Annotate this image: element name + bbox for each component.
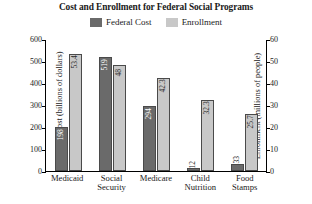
bar-value-label: 53.4 (71, 55, 79, 68)
bar-value-label: 25.7 (247, 116, 255, 129)
y-tick-label-right-20: 20 (270, 124, 278, 132)
x-axis-label: Medicare (134, 174, 178, 192)
bar-enroll[interactable]: 25.7 (245, 114, 258, 171)
y-tick-mark-left-0 (42, 172, 46, 173)
plot-area: Federal Cost (billions of dollars) Enrol… (45, 40, 267, 172)
y-tick-label-right-40: 40 (270, 80, 278, 88)
x-axis-label: ChildNutrition (178, 174, 222, 192)
y-tick-label-right-10: 10 (270, 146, 278, 154)
bar-value-label: 32.3 (203, 101, 211, 114)
y-tick-mark-right-0 (266, 172, 270, 173)
x-axis-label: SocialSecurity (90, 174, 134, 192)
y-tick-mark-right-50 (266, 62, 270, 63)
bar-group: 51948 (99, 40, 126, 171)
bar-enroll[interactable]: 32.3 (201, 100, 214, 171)
legend-label-enrollment: Enrollment (182, 17, 223, 27)
y-tick-mark-right-60 (266, 40, 270, 41)
legend-item-federal-cost: Federal Cost (90, 17, 152, 27)
bar-value-label: 519 (101, 59, 109, 70)
bar-group: 3325.7 (231, 40, 258, 171)
y-tick-label-left-500: 500 (30, 58, 42, 66)
legend-swatch-federal-cost (90, 18, 102, 27)
y-tick-label-right-50: 50 (270, 58, 278, 66)
bar-enroll[interactable]: 48 (113, 65, 126, 171)
y-tick-mark-right-20 (266, 128, 270, 129)
x-axis-labels: MedicaidSocialSecurityMedicareChildNutri… (45, 174, 267, 192)
legend-label-federal-cost: Federal Cost (106, 17, 152, 27)
legend-item-enrollment: Enrollment (166, 17, 223, 27)
bar-cost[interactable]: 198 (55, 127, 68, 171)
bar-group: 29442.3 (143, 40, 170, 171)
legend-swatch-enrollment (166, 18, 178, 27)
bar-group: 1232.3 (187, 40, 214, 171)
bar-enroll[interactable]: 42.3 (157, 78, 170, 171)
y-tick-label-left-200: 200 (30, 124, 42, 132)
y-tick-label-left-400: 400 (30, 80, 42, 88)
chart-title: Cost and Enrollment for Federal Social P… (0, 2, 312, 12)
y-tick-label-left-600: 600 (30, 36, 42, 44)
bar-value-label: 198 (57, 130, 65, 141)
chart-legend: Federal Cost Enrollment (0, 17, 312, 27)
bar-cost[interactable]: 33 (231, 164, 244, 171)
bar-cost[interactable]: 294 (143, 106, 156, 171)
y-tick-mark-right-10 (266, 150, 270, 151)
y-tick-label-right-60: 60 (270, 36, 278, 44)
bar-value-label: 12 (189, 161, 197, 169)
y-tick-label-right-30: 30 (270, 102, 278, 110)
bar-value-label: 33 (233, 156, 241, 164)
y-tick-mark-right-40 (266, 84, 270, 85)
bar-cost[interactable]: 519 (99, 57, 112, 171)
y-tick-label-left-100: 100 (30, 146, 42, 154)
x-axis-label: FoodStamps (223, 174, 267, 192)
bar-value-label: 294 (145, 108, 153, 119)
x-axis-label: Medicaid (45, 174, 89, 192)
bar-value-label: 42.3 (159, 79, 167, 92)
bar-group: 19853.4 (55, 40, 82, 171)
y-tick-label-left-300: 300 (30, 102, 42, 110)
bar-groups: 19853.45194829442.31232.33325.7 (46, 40, 266, 171)
y-tick-label-right-0: 0 (270, 168, 274, 176)
bar-cost[interactable]: 12 (187, 168, 200, 171)
chart-container: Cost and Enrollment for Federal Social P… (0, 0, 312, 204)
y-tick-mark-right-30 (266, 106, 270, 107)
bar-value-label: 48 (115, 69, 123, 77)
bar-enroll[interactable]: 53.4 (69, 54, 82, 171)
